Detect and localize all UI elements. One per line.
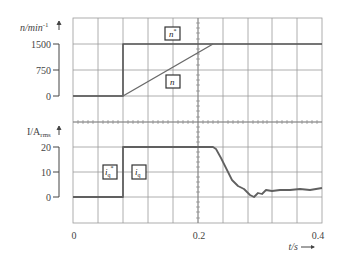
time-tick-0.2: 0.2 xyxy=(193,230,206,241)
speed-tick-750: 750 xyxy=(36,65,51,76)
time-axis-label: t/s xyxy=(289,241,299,252)
current-tick-20: 20 xyxy=(41,142,51,153)
center-axis-ticks xyxy=(73,18,322,223)
time-arrow-icon xyxy=(301,245,315,249)
current-axis-label: I/Arms xyxy=(27,126,51,139)
speed-tick-0: 0 xyxy=(46,91,51,102)
label-iq-ref: iq* xyxy=(103,165,117,179)
speed-axis-label: n/min-1 xyxy=(20,21,49,33)
current-tick-0: 0 xyxy=(46,192,51,203)
time-tick-0.4: 0.4 xyxy=(312,230,325,241)
label-iq-actual: iq xyxy=(132,165,146,179)
svg-text:n: n xyxy=(170,77,175,87)
speed-tick-1500: 1500 xyxy=(31,39,51,50)
time-tick-0: 0 xyxy=(72,230,77,241)
chart: 1500 750 0 20 10 0 n/min-1 I/Arms 0 0.2 … xyxy=(0,0,340,264)
label-n-ref: n* xyxy=(165,27,180,40)
y-axis-brackets xyxy=(53,21,61,197)
current-tick-10: 10 xyxy=(41,167,51,178)
label-n-actual: n xyxy=(166,75,180,88)
